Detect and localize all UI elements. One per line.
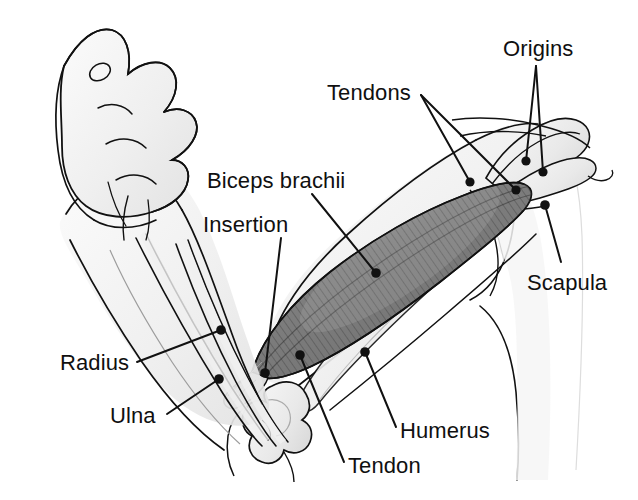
- anatomy-illustration-canvas: [0, 0, 638, 500]
- label-biceps-brachii: Biceps brachii: [207, 170, 345, 192]
- label-origins: Origins: [503, 38, 573, 60]
- label-tendons: Tendons: [327, 82, 411, 104]
- anatomy-figure: Tendons Origins Biceps brachii Insertion…: [0, 0, 638, 500]
- leader-scapula: [540, 200, 561, 262]
- label-humerus: Humerus: [400, 420, 490, 442]
- label-radius: Radius: [60, 352, 129, 374]
- label-tendon: Tendon: [348, 455, 421, 477]
- label-insertion: Insertion: [203, 214, 288, 236]
- label-ulna: Ulna: [110, 405, 156, 427]
- leader-humerus: [360, 347, 396, 427]
- label-scapula: Scapula: [527, 272, 607, 294]
